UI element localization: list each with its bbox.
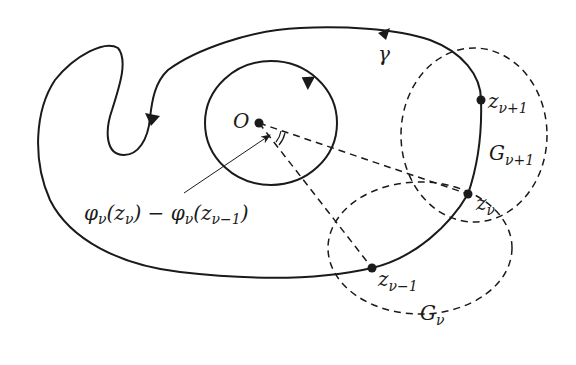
label-z-nu-plus-1-sub: ν+1 — [499, 100, 528, 116]
point-z-nu-plus-1 — [477, 96, 486, 105]
point-O — [255, 119, 264, 128]
label-origin: O — [233, 109, 249, 133]
point-z-nu — [464, 190, 473, 199]
label-G-nu-plus-1-sub: ν+1 — [505, 152, 534, 168]
point-z-nu-minus-1 — [368, 264, 377, 273]
label-z-nu-sub: ν — [487, 202, 496, 218]
label-G-nu-sub: ν — [436, 312, 445, 328]
label-gamma: γ — [378, 42, 390, 66]
diagram-canvas: O γ zν+1 Gν+1 zν zν−1 Gν φν(zν) − φν(zν−… — [0, 0, 576, 365]
label-z-nu-minus-1-sub: ν−1 — [389, 278, 418, 294]
